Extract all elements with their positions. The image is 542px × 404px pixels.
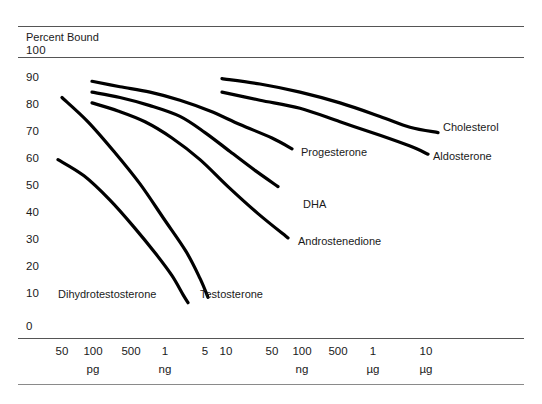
x-tick-7: 100 (292, 345, 311, 357)
x-tick-9: 1 (370, 345, 376, 357)
x-unit-ng-2: ng (296, 363, 309, 375)
x-unit-pg-1: pg (87, 363, 100, 375)
curve-dha (92, 92, 278, 187)
curve-label-androstenedione: Androstenedione (298, 235, 381, 247)
x-tick-2: 500 (121, 345, 140, 357)
x-tick-5: 10 (220, 345, 233, 357)
x-tick-1: 100 (83, 345, 102, 357)
x-unit-ug-2: µg (419, 363, 432, 375)
x-tick-4: 5 (202, 345, 208, 357)
x-unit-ug-1: µg (366, 363, 379, 375)
curve-testosterone (62, 98, 208, 298)
x-tick-6: 50 (266, 345, 279, 357)
curve-label-aldosterone: Aldosterone (433, 150, 492, 162)
x-tick-8: 500 (328, 345, 347, 357)
curve-label-dha: DHA (303, 198, 326, 210)
curve-label-testosterone: Testosterone (200, 288, 263, 300)
x-axis-rule (18, 338, 524, 339)
curve-cholesterol (222, 79, 438, 133)
plot-curves (0, 0, 542, 404)
curve-label-dihydrotestosterone: Dihydrotestosterone (58, 288, 156, 300)
curve-label-cholesterol: Cholesterol (443, 121, 499, 133)
chart-figure: Percent Bound 100 90 80 70 60 50 40 30 2… (0, 0, 542, 404)
curve-progesterone (92, 81, 292, 149)
curve-dihydrotestosterone (58, 160, 188, 303)
x-unit-ng-1: ng (159, 363, 172, 375)
x-tick-10: 10 (420, 345, 433, 357)
x-tick-0: 50 (56, 345, 69, 357)
x-tick-3: 1 (162, 345, 168, 357)
bottom-rule (18, 384, 524, 385)
curve-label-progesterone: Progesterone (301, 146, 367, 158)
